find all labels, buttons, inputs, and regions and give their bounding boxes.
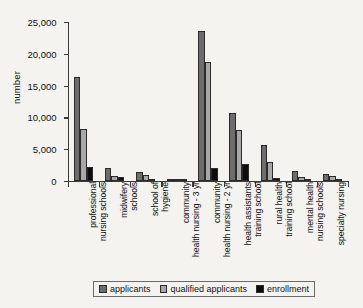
x-axis-category-label: midwifery schools (120, 182, 134, 268)
y-axis-tick: 5,000 (64, 149, 69, 150)
y-axis-tick: 20,000 (64, 54, 69, 55)
x-axis-category-label: community health nursing - 2 yr (213, 182, 227, 268)
bar-chart: number 05,00010,00015,00020,00025,000 pr… (0, 0, 363, 308)
x-axis-category-label: health assistants training school (244, 182, 258, 268)
x-axis-labels: professional nursing schoolsmidwifery sc… (68, 184, 349, 270)
bar (211, 168, 217, 181)
y-axis-tick: 15,000 (64, 86, 69, 87)
legend-swatch-icon (160, 285, 168, 293)
legend-item: qualified applicants (160, 284, 248, 294)
legend-item: applicants (99, 284, 151, 294)
x-axis-category-label: mental health nursing schools (306, 182, 320, 268)
bar (118, 177, 124, 181)
legend-label: enrollment (267, 284, 309, 294)
legend-item: enrollment (256, 284, 309, 294)
bar (242, 164, 248, 181)
y-axis-tick-label: 25,000 (27, 17, 56, 28)
bar (273, 178, 279, 181)
bar (180, 179, 186, 181)
y-axis-tick-label: 0 (51, 176, 56, 187)
y-axis-tick-label: 20,000 (27, 48, 56, 59)
bar (305, 179, 311, 181)
x-axis-category-label: specialty nursing (337, 182, 351, 268)
x-axis-category-label: community health nursing - 3 yr (182, 182, 196, 268)
x-axis-category-label: rural health training school (275, 182, 289, 268)
bar (336, 179, 342, 181)
y-axis-tick-label: 15,000 (27, 80, 56, 91)
y-axis-title: number (11, 58, 22, 118)
y-axis-tick: 25,000 (64, 22, 69, 23)
bar (205, 62, 211, 181)
x-axis-category-label: professional nursing schools (89, 182, 103, 268)
legend-label: applicants (110, 284, 151, 294)
x-axis-category-label: school of hygiene (151, 182, 165, 268)
chart-legend: applicantsqualified applicantsenrollment (93, 281, 315, 297)
bar (149, 179, 155, 181)
y-axis-tick: 10,000 (64, 117, 69, 118)
legend-label: qualified applicants (171, 284, 248, 294)
y-axis-tick-label: 10,000 (27, 112, 56, 123)
bar (87, 167, 93, 181)
legend-swatch-icon (256, 285, 264, 293)
legend-swatch-icon (99, 285, 107, 293)
plot-area: 05,00010,00015,00020,00025,000 (68, 22, 348, 181)
y-axis-tick-label: 5,000 (33, 144, 57, 155)
y-axis-line (68, 22, 69, 182)
